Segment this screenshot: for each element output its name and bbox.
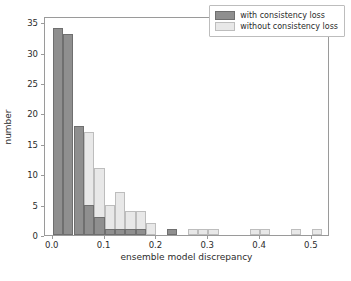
y-tick-label: 5 [33,201,38,211]
x-tick-mark [207,236,208,239]
histogram-bar [115,229,125,235]
legend-item-without-consistency-loss: without consistency loss [215,21,338,32]
x-tick-mark [52,236,53,239]
histogram-bar [94,217,104,235]
x-tick-mark [104,236,105,239]
legend-item-with-consistency-loss: with consistency loss [215,10,338,21]
x-tick-label: 0.2 [149,240,163,250]
histogram-bar [63,34,73,235]
histogram-bar [260,229,270,235]
x-tick-mark [311,236,312,239]
x-tick-label: 0.0 [45,240,59,250]
histogram-bar [167,229,177,235]
legend-swatch-icon-dark [215,11,235,20]
y-tick-label: 30 [27,49,38,59]
histogram-bar [312,229,322,235]
histogram-bar [188,229,198,235]
y-tick-label: 25 [27,79,38,89]
legend-swatch-icon-light [215,22,235,31]
x-axis-title: ensemble model discrepancy [44,252,329,262]
y-tick-label: 10 [27,170,38,180]
x-tick-mark [155,236,156,239]
histogram-bar [136,229,146,235]
y-tick-label: 35 [27,18,38,28]
legend: with consistency loss without consistenc… [209,5,345,37]
y-axis-title: number [2,17,14,236]
legend-label-1: without consistency loss [240,21,338,32]
y-axis-title-text: number [3,109,13,144]
histogram-figure: number 05101520253035 0.00.10.20.30.40.5… [0,0,351,281]
histogram-bar [53,28,63,235]
plot-area [44,17,329,236]
x-tick-label: 0.3 [200,240,214,250]
histogram-bar [250,229,260,235]
histogram-bar [105,229,115,235]
histogram-bar [125,229,135,235]
x-tick-label: 0.4 [252,240,266,250]
x-tick-label: 0.5 [304,240,318,250]
legend-label-0: with consistency loss [240,10,325,21]
histogram-bar [84,205,94,235]
x-tick-label: 0.1 [97,240,111,250]
y-tick-label: 0 [33,231,38,241]
histogram-bar [208,229,218,235]
histogram-bar [146,223,156,235]
histogram-bar [74,126,84,236]
histogram-bar [198,229,208,235]
x-tick-mark [259,236,260,239]
y-tick-label: 20 [27,109,38,119]
histogram-bar [291,229,301,235]
y-tick-label: 15 [27,140,38,150]
bars-layer [45,18,328,235]
